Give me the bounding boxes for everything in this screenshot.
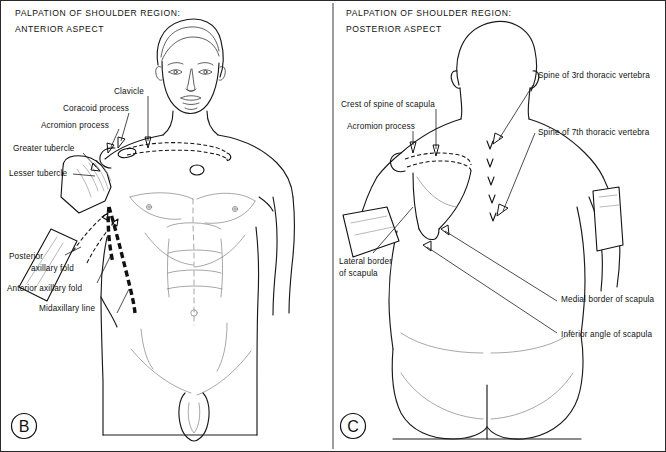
label-midaxillary-line: Midaxillary line	[39, 304, 95, 313]
panel-b-title-line2: ANTERIOR ASPECT	[15, 24, 104, 34]
label-coracoid-process: Coracoid process	[63, 104, 129, 113]
nipple-left	[146, 204, 151, 209]
label-inferior-angle-of-scapula: Inferior angle of scapula	[561, 330, 652, 339]
plate-drawing: PALPATION OF SHOULDER REGION: ANTERIOR A…	[1, 1, 665, 451]
spinous-process-chevrons	[487, 141, 496, 221]
panel-b-title-line1: PALPATION OF SHOULDER REGION:	[15, 8, 180, 18]
label-posterior-axillary-fold-line2: axillary fold	[31, 264, 74, 273]
panel-c-title-line2: POSTERIOR ASPECT	[346, 24, 442, 34]
examiner-hand-posterior-upper	[593, 187, 623, 251]
nipple-right	[232, 206, 237, 211]
axillary-markings	[73, 207, 135, 313]
panel-letter-c: C	[341, 414, 366, 439]
panel-b-anterior: PALPATION OF SHOULDER REGION: ANTERIOR A…	[7, 8, 294, 441]
examiner-hand-posterior-lower	[343, 207, 399, 257]
label-acromion-process: Acromion process	[41, 121, 109, 130]
panel-c-posterior: PALPATION OF SHOULDER REGION: POSTERIOR …	[339, 8, 655, 439]
label-greater-tubercle: Greater tubercle	[13, 144, 75, 153]
panel-letter-c-text: C	[347, 418, 359, 435]
label-crest-of-spine-of-scapula: Crest of spine of scapula	[341, 100, 435, 109]
panel-letter-b: B	[12, 414, 37, 439]
posterior-head	[451, 21, 539, 119]
posterior-torso	[359, 119, 620, 439]
label-spine-7th-thoracic-vertebra: Spine of 7th thoracic vertebra	[538, 128, 650, 137]
sternal-notch	[190, 165, 204, 175]
panel-letter-b-text: B	[19, 418, 30, 435]
anterior-head	[156, 19, 226, 113]
label-anterior-axillary-fold: Anterior axillary fold	[7, 284, 82, 293]
label-acromion-process-posterior: Acromion process	[347, 122, 415, 131]
scapula-outline	[390, 153, 471, 240]
label-clavicle: Clavicle	[114, 87, 144, 96]
label-lesser-tubercle: Lesser tubercle	[9, 169, 68, 178]
label-posterior-axillary-fold-line1: Posterior	[9, 252, 43, 261]
label-spine-3rd-thoracic-vertebra: Spine of 3rd thoracic vertebra	[538, 71, 650, 80]
label-lateral-border-of-scapula-line1: Lateral border	[339, 257, 392, 266]
examiner-hand-upper	[61, 156, 111, 213]
panel-c-title-line1: PALPATION OF SHOULDER REGION:	[346, 8, 511, 18]
label-medial-border-of-scapula: Medial border of scapula	[561, 295, 655, 304]
anatomy-figure-plate: PALPATION OF SHOULDER REGION: ANTERIOR A…	[0, 0, 666, 452]
label-lateral-border-of-scapula-line2: of scapula	[339, 269, 378, 278]
anterior-torso	[101, 111, 294, 441]
